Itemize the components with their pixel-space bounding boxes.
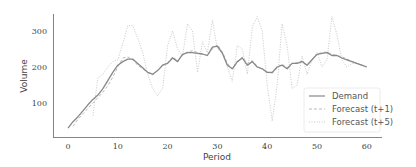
x-tick-label: 10 <box>113 142 123 151</box>
x-tick-labels: 0102030405060 <box>65 142 371 151</box>
x-tick-label: 30 <box>212 142 222 151</box>
x-tick-label: 0 <box>65 142 70 151</box>
x-tick-label: 40 <box>262 142 272 151</box>
y-tick-label: 100 <box>32 99 47 108</box>
x-tick-label: 50 <box>312 142 322 151</box>
y-axis-label: Volume <box>19 59 29 93</box>
legend-label-forecast-t5: Forecast (t+5) <box>332 117 393 127</box>
y-tick-label: 300 <box>32 27 47 36</box>
x-tick-label: 60 <box>362 142 372 151</box>
y-tick-label: 200 <box>32 63 47 72</box>
legend-label-demand: Demand <box>332 91 368 101</box>
line-chart: 100200300 0102030405060 Period Volume De… <box>0 0 416 167</box>
y-tick-labels: 100200300 <box>32 27 47 108</box>
legend: Demand Forecast (t+1) Forecast (t+5) <box>304 88 393 132</box>
x-axis-label: Period <box>203 152 231 162</box>
legend-label-forecast-t1: Forecast (t+1) <box>332 104 393 114</box>
x-tick-label: 20 <box>163 142 173 151</box>
